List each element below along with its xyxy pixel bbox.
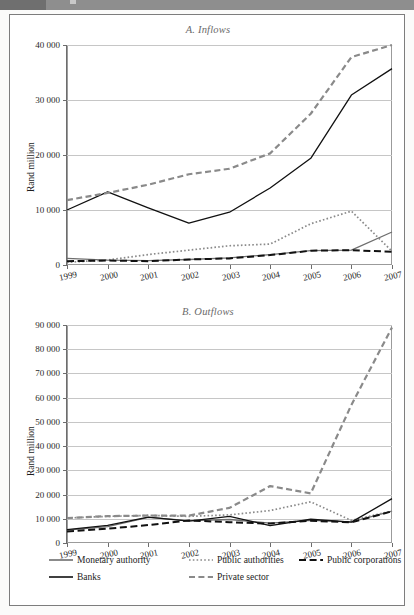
- x-axis-tick-mark: [108, 543, 109, 547]
- panel-inflows-title: A. Inflows: [10, 24, 406, 35]
- y-axis-tick-label: 0: [56, 538, 61, 548]
- x-axis-tick-mark: [392, 265, 393, 269]
- y-axis-tick-label: 20 000: [35, 490, 60, 500]
- legend-line-sample: [298, 555, 324, 565]
- x-axis-tick-mark: [351, 543, 352, 547]
- series-line-public-corporations: [67, 250, 392, 261]
- series-line-private-sector: [67, 327, 392, 518]
- panel-inflows-plot-area: 010 00020 00030 00040 000199920002001200…: [67, 45, 392, 265]
- x-axis-tick-mark: [311, 265, 312, 269]
- panel-outflows-title: B. Outflows: [10, 306, 406, 317]
- x-axis-tick-mark: [148, 265, 149, 269]
- header-bar-accent: [0, 0, 46, 10]
- y-axis-tick-label: 70 000: [35, 368, 60, 378]
- legend-label: Monetary authority: [77, 555, 151, 565]
- x-axis-tick-label: 2002: [180, 269, 200, 283]
- legend-label: Banks: [77, 572, 101, 582]
- header-bar: [0, 0, 414, 10]
- y-axis-tick-label: 60 000: [35, 393, 60, 403]
- y-axis-tick-label: 0: [56, 260, 61, 270]
- x-axis-tick-label: 2004: [261, 269, 281, 283]
- figure-page: A. Inflows Rand million 010 00020 00030 …: [0, 0, 414, 615]
- legend-row: Monetary authorityPublic authoritiesPubl…: [20, 553, 400, 570]
- x-axis-tick-mark: [67, 543, 68, 547]
- series-line-monetary-authority: [67, 232, 392, 261]
- series-line-public-authorities: [67, 211, 392, 262]
- y-axis-tick-label: 20 000: [35, 150, 60, 160]
- legend-label: Public authorities: [217, 555, 284, 565]
- x-axis-tick-mark: [230, 543, 231, 547]
- x-axis-tick-label: 2000: [99, 269, 119, 283]
- x-axis-tick-mark: [67, 265, 68, 269]
- legend-item-public-corporations: Public corporations: [298, 555, 401, 565]
- x-axis-tick-mark: [270, 543, 271, 547]
- x-axis-tick-label: 2006: [343, 269, 363, 283]
- y-axis-tick-label: 90 000: [35, 320, 60, 330]
- y-axis-tick-label: 40 000: [35, 40, 60, 50]
- x-axis-tick-mark: [351, 265, 352, 269]
- y-axis-tick-label: 10 000: [35, 205, 60, 215]
- x-axis-tick-mark: [311, 543, 312, 547]
- x-axis-tick-label: 2007: [383, 269, 403, 283]
- x-axis-tick-label: 2005: [302, 269, 322, 283]
- series-layer: [67, 45, 392, 265]
- panel-outflows-plot-area: 010 00020 00030 00040 00050 00060 00070 …: [67, 325, 392, 543]
- y-axis-tick-label: 30 000: [35, 95, 60, 105]
- series-layer: [67, 325, 392, 543]
- x-axis-tick-mark: [230, 265, 231, 269]
- x-axis-tick-label: 1999: [58, 269, 78, 283]
- x-axis-tick-mark: [189, 543, 190, 547]
- series-line-public-authorities: [67, 502, 392, 521]
- legend-line-sample: [188, 572, 214, 582]
- y-axis-tick-label: 40 000: [35, 441, 60, 451]
- x-axis-tick-mark: [108, 265, 109, 269]
- y-axis-tick-label: 30 000: [35, 465, 60, 475]
- series-line-private-sector: [67, 45, 392, 200]
- legend-line-sample: [48, 572, 74, 582]
- figure-legend: Monetary authorityPublic authoritiesPubl…: [20, 553, 400, 599]
- x-axis-tick-mark: [392, 543, 393, 547]
- x-axis-tick-label: 2001: [139, 269, 159, 283]
- y-axis-tick-label: 50 000: [35, 417, 60, 427]
- x-axis-tick-mark: [148, 543, 149, 547]
- legend-row: BanksPrivate sector: [20, 570, 400, 587]
- y-axis-tick-label: 10 000: [35, 514, 60, 524]
- y-axis-tick-label: 80 000: [35, 344, 60, 354]
- legend-label: Private sector: [217, 572, 269, 582]
- header-bar-notch: [70, 0, 76, 4]
- legend-item-private-sector: Private sector: [188, 572, 269, 582]
- panel-outflows: B. Outflows Rand million 010 00020 00030…: [10, 301, 406, 549]
- series-line-banks: [67, 69, 392, 224]
- legend-item-banks: Banks: [48, 572, 101, 582]
- x-axis-tick-mark: [189, 265, 190, 269]
- legend-line-sample: [48, 555, 74, 565]
- legend-item-public-authorities: Public authorities: [188, 555, 284, 565]
- panel-inflows: A. Inflows Rand million 010 00020 00030 …: [10, 17, 406, 303]
- legend-line-sample: [188, 555, 214, 565]
- legend-label: Public corporations: [327, 555, 401, 565]
- x-axis-tick-mark: [270, 265, 271, 269]
- x-axis-tick-label: 2003: [221, 269, 241, 283]
- legend-item-monetary-authority: Monetary authority: [48, 555, 151, 565]
- figure-frame: A. Inflows Rand million 010 00020 00030 …: [9, 14, 405, 606]
